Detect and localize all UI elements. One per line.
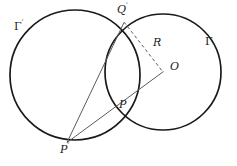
geometry-canvas	[0, 0, 237, 166]
radius-label: R	[153, 37, 161, 48]
geometry-figure: Γ′ Γ Q′ R O P P′	[0, 0, 237, 166]
point-p-label: P	[119, 99, 126, 110]
point-p-prime-label: P′	[60, 144, 69, 155]
circle-gamma-prime-label: Γ′	[14, 21, 23, 32]
segment-o-to-p-prime	[67, 72, 164, 143]
segment-q-to-p-prime	[67, 23, 124, 143]
circle-gamma-label: Γ	[205, 36, 213, 47]
point-q-label: Q′	[117, 4, 128, 15]
point-o-label: O	[170, 61, 179, 72]
